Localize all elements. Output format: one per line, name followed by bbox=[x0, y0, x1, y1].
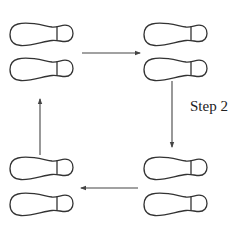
footprint-diagram: Step 2 bbox=[0, 0, 246, 233]
shoe-sole-icon bbox=[10, 157, 73, 179]
step-label-step2: Step 2 bbox=[190, 99, 228, 114]
shoe-sole-icon bbox=[144, 23, 207, 45]
shoe-sole-icon bbox=[10, 193, 73, 215]
diagram-canvas bbox=[0, 0, 246, 233]
direction-arrows bbox=[40, 53, 172, 188]
footprint-pair-bottom-left bbox=[10, 157, 73, 215]
shoe-sole-icon bbox=[144, 157, 207, 179]
footprint-pair-bottom-right bbox=[144, 157, 207, 215]
shoe-sole-icon bbox=[144, 193, 207, 215]
footprint-pair-top-left bbox=[10, 23, 73, 80]
footprint-pair-top-right bbox=[144, 23, 207, 80]
shoe-sole-icon bbox=[10, 58, 73, 80]
shoe-sole-icon bbox=[10, 23, 73, 45]
shoe-sole-icon bbox=[144, 58, 207, 80]
